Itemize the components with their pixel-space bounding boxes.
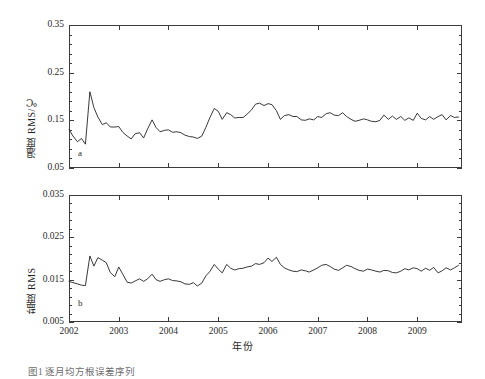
y-tick-minor-right <box>459 139 462 140</box>
y-tick-minor-right <box>459 297 462 298</box>
y-tick-major <box>69 168 74 169</box>
x-tick-bottom <box>69 163 70 168</box>
y-tick-minor <box>69 35 72 36</box>
y-tick-major-right <box>457 237 462 238</box>
y-tick-major-right <box>457 322 462 323</box>
y-tick-minor-right <box>459 158 462 159</box>
y-tick-minor <box>69 229 72 230</box>
y-tick-minor-right <box>459 111 462 112</box>
x-tick-bottom <box>168 163 169 168</box>
x-tick-label: 2002 <box>60 327 79 337</box>
y-tick-label: 0.035 <box>43 190 64 200</box>
x-tick-bottom <box>218 317 219 322</box>
y-tick-minor <box>69 271 72 272</box>
y-tick-label: 0.025 <box>43 233 64 243</box>
x-tick-top <box>218 25 219 30</box>
y-tick-minor <box>69 92 72 93</box>
x-tick-top <box>218 195 219 200</box>
y-tick-major <box>69 322 74 323</box>
y-tick-label: 0.35 <box>47 20 64 30</box>
y-tick-major <box>69 120 74 121</box>
y-tick-major-right <box>457 73 462 74</box>
y-tick-major-right <box>457 195 462 196</box>
x-axis-title: 年份 <box>0 338 485 353</box>
x-tick-top <box>318 195 319 200</box>
y-tick-minor <box>69 158 72 159</box>
x-tick-bottom <box>168 317 169 322</box>
y-tick-label: 0.015 <box>43 275 64 285</box>
y-tick-minor-right <box>459 271 462 272</box>
y-tick-label: 0.15 <box>47 116 64 126</box>
y-tick-label: 0.25 <box>47 68 64 78</box>
y-tick-minor <box>69 111 72 112</box>
y-axis-title-a: 温度 RMS/℃ <box>24 36 39 158</box>
y-tick-major <box>69 237 74 238</box>
y-tick-minor <box>69 139 72 140</box>
y-tick-label: 0.05 <box>47 163 64 173</box>
y-tick-minor <box>69 101 72 102</box>
y-tick-minor <box>69 254 72 255</box>
x-tick-label: 2003 <box>109 327 128 337</box>
x-tick-top <box>417 195 418 200</box>
y-tick-minor-right <box>459 254 462 255</box>
y-tick-minor-right <box>459 314 462 315</box>
y-tick-minor <box>69 246 72 247</box>
x-tick-top <box>367 25 368 30</box>
x-tick-bottom <box>69 317 70 322</box>
y-tick-minor-right <box>459 203 462 204</box>
series-line-temperature <box>69 92 459 144</box>
x-tick-bottom <box>119 317 120 322</box>
x-tick-top <box>69 195 70 200</box>
y-tick-minor <box>69 203 72 204</box>
y-tick-minor-right <box>459 263 462 264</box>
y-tick-minor-right <box>459 229 462 230</box>
y-tick-minor <box>69 212 72 213</box>
x-tick-label: 2009 <box>408 327 427 337</box>
y-tick-minor <box>69 82 72 83</box>
y-tick-minor <box>69 314 72 315</box>
y-tick-minor-right <box>459 44 462 45</box>
y-tick-minor-right <box>459 35 462 36</box>
x-tick-top <box>119 25 120 30</box>
x-tick-bottom <box>367 163 368 168</box>
x-tick-bottom <box>119 163 120 168</box>
y-tick-minor <box>69 288 72 289</box>
y-tick-minor-right <box>459 149 462 150</box>
y-tick-minor <box>69 149 72 150</box>
y-tick-minor <box>69 220 72 221</box>
figure-caption: 图1 逐月均方根误差序列 <box>28 366 468 379</box>
y-tick-minor-right <box>459 63 462 64</box>
y-tick-minor-right <box>459 92 462 93</box>
y-tick-major <box>69 280 74 281</box>
x-tick-bottom <box>367 317 368 322</box>
x-tick-top <box>268 25 269 30</box>
x-tick-bottom <box>318 317 319 322</box>
x-tick-top <box>417 25 418 30</box>
x-tick-top <box>367 195 368 200</box>
x-tick-top <box>69 25 70 30</box>
y-tick-minor-right <box>459 220 462 221</box>
x-tick-bottom <box>417 163 418 168</box>
x-tick-bottom <box>268 317 269 322</box>
series-plot-a <box>69 25 462 168</box>
x-tick-top <box>318 25 319 30</box>
y-tick-minor <box>69 130 72 131</box>
y-tick-minor-right <box>459 212 462 213</box>
series-line-salinity <box>69 256 459 286</box>
y-tick-minor-right <box>459 288 462 289</box>
y-tick-minor <box>69 44 72 45</box>
y-tick-minor <box>69 54 72 55</box>
y-tick-major-right <box>457 168 462 169</box>
y-tick-minor-right <box>459 101 462 102</box>
x-tick-top <box>168 195 169 200</box>
y-tick-major <box>69 73 74 74</box>
x-tick-label: 2005 <box>209 327 228 337</box>
x-tick-bottom <box>417 317 418 322</box>
y-tick-major-right <box>457 120 462 121</box>
x-tick-label: 2006 <box>258 327 277 337</box>
series-plot-b <box>69 195 462 322</box>
y-tick-minor <box>69 305 72 306</box>
y-axis-title-b: 盐度 RMS <box>24 206 39 314</box>
x-tick-label: 2007 <box>308 327 327 337</box>
